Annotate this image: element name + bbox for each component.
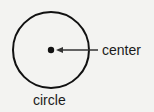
center-label: center [102, 43, 141, 57]
circle-label: circle [33, 93, 66, 107]
arrowhead-icon [56, 47, 63, 53]
center-dot [48, 47, 54, 53]
